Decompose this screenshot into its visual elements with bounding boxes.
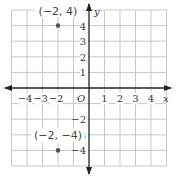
y-tick-label: 3 (80, 36, 86, 47)
y-axis-up-arrow-icon (86, 3, 92, 11)
y-tick-label: 1 (80, 67, 86, 78)
x-axis-right-arrow-icon (164, 85, 172, 91)
y-axis-down-arrow-icon (86, 167, 92, 175)
y-tick-label: 4 (80, 21, 86, 32)
point-label: (−2, 4) (39, 5, 78, 18)
x-axis-left-arrow-icon (4, 85, 12, 91)
x-tick-label: 1 (101, 93, 107, 104)
x-tick-label: 2 (117, 93, 123, 104)
y-tick-label: −4 (71, 145, 86, 156)
x-tick-label: −4 (18, 93, 33, 104)
y-tick-label: −2 (71, 114, 86, 125)
origin-label: O (77, 93, 85, 104)
x-tick-label: −3 (33, 93, 48, 104)
point-marker (56, 148, 61, 153)
point-label: (−2, −4) (34, 129, 82, 142)
x-axis-label: x (163, 93, 169, 104)
x-tick-label: −2 (49, 93, 64, 104)
y-axis-label: y (93, 6, 100, 17)
x-tick-label: 3 (132, 93, 138, 104)
x-tick-label: 4 (148, 93, 154, 104)
coordinate-plane: −4−3−212344321−2−3−4 x y O (−2, 4)(−2, −… (0, 0, 176, 181)
point-marker (56, 23, 61, 28)
y-tick-label: 2 (80, 52, 86, 63)
